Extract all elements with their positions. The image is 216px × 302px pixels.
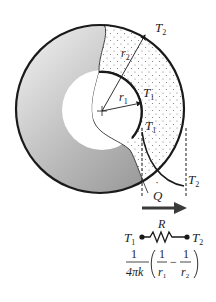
left-paren: [151, 250, 155, 278]
node-T2: [184, 234, 189, 239]
right-paren: [194, 250, 198, 278]
heat-flow-arrow: [142, 202, 187, 214]
node-T2-label: T2: [192, 230, 203, 247]
term1-numerator: 1: [159, 247, 165, 261]
resistor-label: R: [157, 217, 166, 231]
formula-prefix-denominator: 4πk: [126, 265, 144, 279]
label-T2-profile: T2: [188, 172, 199, 189]
node-T1-label: T1: [124, 230, 135, 247]
label-heat-rate-dot: ˙: [155, 179, 159, 193]
resistance-formula: 1 4πk 1 r1 − 1 r2: [126, 247, 198, 280]
spherical-shell-diagram: T2 r2 r1 T1 T1 T2 Q ˙ R T1 T2 1 4πk 1 r1…: [0, 0, 216, 302]
label-T2-outer: T2: [155, 20, 166, 37]
formula-prefix-numerator: 1: [131, 247, 137, 261]
term1-denominator: r1: [158, 265, 167, 280]
term2-denominator: r2: [181, 265, 190, 280]
resistance-network: R T1 T2: [124, 217, 203, 247]
term2-numerator: 1: [183, 247, 189, 261]
minus-sign: −: [170, 255, 177, 269]
resistor-zigzag: [142, 232, 187, 242]
